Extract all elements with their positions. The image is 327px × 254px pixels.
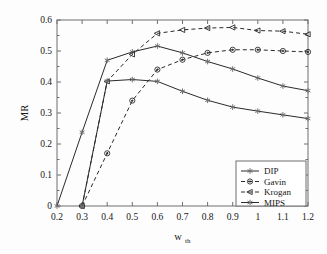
x-tick-label: 0.8 <box>202 212 214 222</box>
datapoint-dip-1 <box>80 129 85 135</box>
y-axis-title-text: MR <box>19 105 30 121</box>
x-tick-label: 0.9 <box>227 212 239 222</box>
y-tick-label: 0.4 <box>40 77 52 87</box>
y-tick-label: 0.1 <box>40 170 52 180</box>
x-tick-label: 0.3 <box>76 212 88 222</box>
y-tick-label: 0.2 <box>40 139 52 149</box>
chart-legend: DIPGavinKroganMIPS <box>236 161 306 208</box>
datapoint-krogan-4 <box>179 27 184 32</box>
x-axis-title: w th <box>174 231 191 245</box>
datapoint-dip-2 <box>105 58 110 64</box>
y-tick-label: 0.3 <box>40 108 52 118</box>
y-tick-label: 0.6 <box>40 15 52 25</box>
datapoint-gavin-9-center <box>307 51 308 52</box>
datapoint-gavin-7-center <box>257 49 258 50</box>
datapoint-gavin-6-center <box>232 49 233 50</box>
legend-label-mips: MIPS <box>264 198 285 208</box>
datapoint-mips-4 <box>180 89 185 95</box>
datapoint-gavin-8-center <box>282 50 283 51</box>
datapoint-dip-8 <box>255 75 260 81</box>
chart-figure: 0.20.30.40.50.60.70.80.911.11.2 00.10.20… <box>0 0 327 254</box>
legend-marker-gavin-center <box>249 181 250 182</box>
x-tick-label: 0.4 <box>101 212 113 222</box>
x-tick-label: 1.1 <box>277 212 289 222</box>
x-tick-label: 0.5 <box>126 212 138 222</box>
datapoint-gavin-4-center <box>182 59 183 60</box>
x-tick-label: 0.7 <box>177 212 189 222</box>
datapoint-gavin-3-center <box>157 69 158 70</box>
datapoint-gavin-1-center <box>107 153 108 154</box>
y-axis-tick-labels: 00.10.20.30.40.50.6 <box>40 15 52 211</box>
legend-label-gavin: Gavin <box>264 177 286 187</box>
x-axis-title-subscript: th <box>185 237 191 245</box>
x-tick-label: 1 <box>255 212 260 222</box>
legend-label-krogan: Krogan <box>264 187 291 197</box>
x-tick-label: 1.2 <box>302 212 314 222</box>
legend-label-dip: DIP <box>264 166 279 176</box>
y-tick-label: 0 <box>47 201 52 211</box>
line-chart-svg: 0.20.30.40.50.60.70.80.911.11.2 00.10.20… <box>0 0 327 254</box>
x-axis-tick-labels: 0.20.30.40.50.60.70.80.911.11.2 <box>51 212 314 222</box>
y-axis-title: MR <box>19 105 30 121</box>
x-tick-label: 0.2 <box>51 212 63 222</box>
x-axis-title-base: w <box>174 231 182 242</box>
datapoint-gavin-5-center <box>207 52 208 53</box>
y-tick-label: 0.5 <box>40 46 52 56</box>
x-tick-label: 0.6 <box>151 212 163 222</box>
datapoint-gavin-2-center <box>132 100 133 101</box>
